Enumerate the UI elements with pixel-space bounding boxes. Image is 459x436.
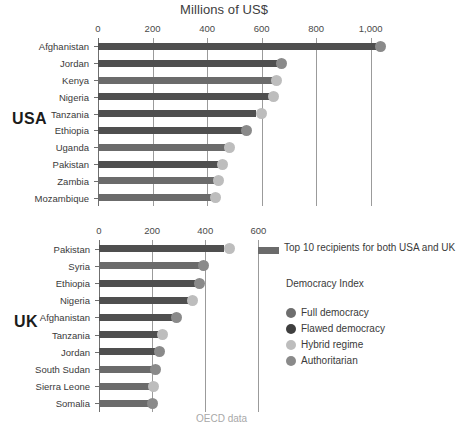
uk-category-label: Somalia — [56, 398, 90, 409]
uk-bar[interactable] — [99, 314, 172, 321]
group-label-usa: USA — [12, 110, 47, 128]
usa-category-label: Kenya — [62, 75, 89, 86]
usa-tick-label: 800 — [308, 23, 324, 34]
uk-democracy-dot[interactable] — [187, 295, 198, 306]
usa-bar[interactable] — [98, 127, 243, 134]
legend-dot-full-democracy[interactable] — [286, 308, 296, 318]
usa-democracy-dot[interactable] — [224, 142, 235, 153]
usa-tick-label: 400 — [199, 23, 215, 34]
legend-dot-authoritarian[interactable] — [286, 356, 296, 366]
uk-category-label: Tanzania — [52, 329, 90, 340]
legend-items: Full democracyFlawed democracyHybrid reg… — [258, 238, 459, 378]
usa-democracy-dot[interactable] — [276, 58, 287, 69]
usa-bar[interactable] — [98, 161, 218, 168]
usa-category-label: Nigeria — [59, 91, 89, 102]
usa-bar[interactable] — [98, 177, 214, 184]
uk-bar[interactable] — [99, 331, 158, 338]
usa-category-label: Afghanistan — [39, 41, 89, 52]
uk-bar[interactable] — [99, 245, 224, 252]
usa-plot-area: 02004006008001,000 — [98, 38, 398, 206]
source-note: OECD data — [196, 413, 247, 424]
usa-category-label: Ethiopia — [55, 125, 89, 136]
usa-category-labels: AfghanistanJordanKenyaNigeriaTanzaniaEth… — [0, 0, 95, 212]
uk-category-label: Sierra Leone — [36, 381, 90, 392]
uk-democracy-dot[interactable] — [171, 312, 182, 323]
legend-label-flawed-democracy: Flawed democracy — [301, 323, 385, 334]
usa-bar[interactable] — [98, 60, 277, 67]
uk-bar[interactable] — [99, 400, 149, 407]
usa-category-label: Zambia — [57, 175, 89, 186]
usa-gridline — [316, 38, 317, 206]
uk-category-label: South Sudan — [35, 364, 90, 375]
uk-tick-label: 0 — [96, 225, 101, 236]
uk-democracy-dot[interactable] — [194, 278, 205, 289]
legend-dot-hybrid-regime[interactable] — [286, 340, 296, 350]
uk-democracy-dot[interactable] — [148, 381, 159, 392]
usa-bar[interactable] — [98, 43, 376, 50]
uk-category-label: Ethiopia — [56, 278, 90, 289]
usa-category-label: Jordan — [60, 58, 89, 69]
uk-category-label: Afghanistan — [40, 312, 90, 323]
uk-bar[interactable] — [99, 348, 155, 355]
usa-bar[interactable] — [98, 110, 256, 117]
usa-chart-panel: Millions of US$ AfghanistanJordanKenyaNi… — [0, 0, 459, 212]
uk-bar[interactable] — [99, 366, 152, 373]
chart-page: Millions of US$ AfghanistanJordanKenyaNi… — [0, 0, 459, 436]
usa-democracy-dot[interactable] — [213, 175, 224, 186]
usa-category-label: Uganda — [56, 142, 89, 153]
legend-label-full-democracy: Full democracy — [301, 307, 369, 318]
uk-category-label: Pakistan — [54, 243, 90, 254]
uk-tick-label: 400 — [197, 225, 213, 236]
uk-democracy-dot[interactable] — [150, 364, 161, 375]
legend-label-hybrid-regime: Hybrid regime — [301, 339, 363, 350]
usa-tick-label: 600 — [254, 23, 270, 34]
uk-category-label: Nigeria — [60, 295, 90, 306]
uk-bar[interactable] — [99, 262, 199, 269]
uk-democracy-dot[interactable] — [154, 346, 165, 357]
usa-gridline — [371, 38, 372, 206]
uk-bar[interactable] — [99, 297, 188, 304]
uk-category-label: Syria — [68, 260, 90, 271]
uk-democracy-dot[interactable] — [224, 243, 235, 254]
usa-tick-label: 200 — [145, 23, 161, 34]
usa-bar[interactable] — [98, 77, 273, 84]
legend-dot-flawed-democracy[interactable] — [286, 324, 296, 334]
usa-democracy-dot[interactable] — [268, 91, 279, 102]
uk-bar[interactable] — [99, 280, 195, 287]
uk-democracy-dot[interactable] — [157, 329, 168, 340]
uk-bar[interactable] — [99, 383, 150, 390]
usa-tick-label: 1,000 — [359, 23, 383, 34]
uk-democracy-dot[interactable] — [198, 260, 209, 271]
usa-bar[interactable] — [98, 194, 211, 201]
group-label-uk: UK — [14, 313, 38, 331]
usa-bar[interactable] — [98, 144, 225, 151]
usa-democracy-dot[interactable] — [375, 41, 386, 52]
usa-bar[interactable] — [98, 93, 270, 100]
usa-democracy-dot[interactable] — [256, 108, 267, 119]
uk-tick-label: 600 — [250, 225, 266, 236]
usa-democracy-dot[interactable] — [241, 125, 252, 136]
uk-tick-label: 200 — [144, 225, 160, 236]
uk-democracy-dot[interactable] — [147, 398, 158, 409]
usa-democracy-dot[interactable] — [210, 192, 221, 203]
usa-category-label: Mozambique — [35, 192, 89, 203]
usa-category-label: Tanzania — [51, 108, 89, 119]
uk-plot-area: 0200400600 — [99, 240, 269, 412]
usa-tick-label: 0 — [95, 23, 100, 34]
uk-category-label: Jordan — [61, 346, 90, 357]
usa-democracy-dot[interactable] — [217, 159, 228, 170]
chart-legend: Top 10 recipients for both USA and UK De… — [258, 238, 459, 378]
usa-category-label: Pakistan — [53, 159, 89, 170]
usa-democracy-dot[interactable] — [271, 75, 282, 86]
axis-title-millions: Millions of US$ — [180, 2, 268, 17]
legend-label-authoritarian: Authoritarian — [301, 355, 358, 366]
